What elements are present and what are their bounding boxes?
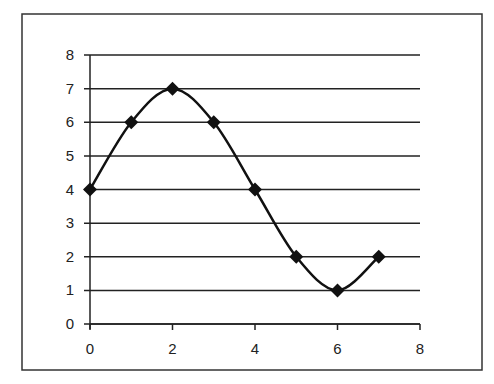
x-tick-label: 4 (251, 340, 259, 357)
y-tick-label: 1 (66, 281, 74, 298)
x-tick-label: 8 (416, 340, 424, 357)
y-tick-label: 4 (66, 181, 74, 198)
y-axis-tick-labels: 012345678 (66, 46, 74, 332)
y-tick-label: 7 (66, 80, 74, 97)
y-tick-label: 5 (66, 147, 74, 164)
y-tick-label: 3 (66, 214, 74, 231)
x-tick-label: 0 (86, 340, 94, 357)
y-tick-label: 2 (66, 248, 74, 265)
y-tick-label: 8 (66, 46, 74, 63)
x-tick-label: 2 (168, 340, 176, 357)
line-chart: 012345678 02468 (0, 0, 494, 384)
x-tick-label: 6 (333, 340, 341, 357)
y-tick-label: 0 (66, 315, 74, 332)
y-tick-label: 6 (66, 113, 74, 130)
